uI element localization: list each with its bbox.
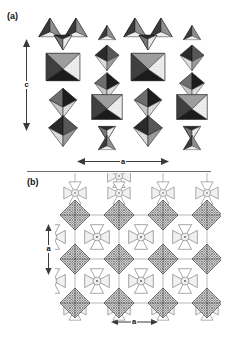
panel-a-structure-drawing	[33, 11, 213, 157]
panel-b-a-axis-vertical-label: a	[45, 245, 51, 253]
panel-a-label: (a)	[7, 11, 18, 21]
panel-a-c-axis-label: c	[23, 81, 29, 89]
panel-b: (b) a a	[0, 172, 225, 339]
panel-a-a-axis-label: a	[120, 158, 126, 166]
panel-b-label: (b)	[27, 177, 39, 187]
panel-a: (a) c a	[0, 0, 225, 172]
crystal-structure-figure: (a) c a	[0, 0, 225, 339]
panel-b-framework-drawing	[55, 173, 221, 325]
